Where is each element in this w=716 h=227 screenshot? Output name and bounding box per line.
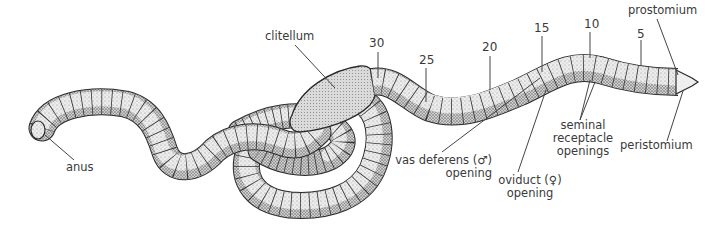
earthworm-diagram: clitellum anus prostomium peristomium se… (0, 0, 716, 227)
seminal-line3: openings (543, 145, 623, 158)
peristomium-leader (667, 91, 683, 141)
vas-line2: opening (384, 167, 492, 180)
segment-number-30: 30 (369, 37, 384, 50)
prostomium-leader (657, 19, 678, 75)
seminal-leader-2 (580, 82, 595, 120)
label-oviduct-opening: oviduct (♀) opening (488, 174, 572, 200)
segment-number-20: 20 (482, 41, 497, 54)
segment-number-10: 10 (584, 18, 599, 31)
label-prostomium: prostomium (628, 4, 697, 17)
segment-number-15: 15 (534, 22, 549, 35)
label-anus: anus (66, 161, 94, 174)
label-peristomium: peristomium (620, 139, 693, 152)
segment-number-5: 5 (637, 28, 645, 41)
earthworm-illustration (0, 0, 716, 227)
seminal-leader-1 (580, 80, 590, 120)
anus-leader (45, 135, 74, 160)
label-seminal-receptacle-openings: seminal receptacle openings (543, 119, 623, 158)
oviduct-line2: opening (488, 187, 572, 200)
label-clitellum: clitellum (265, 30, 314, 43)
clitellum-leader (295, 45, 335, 88)
worm-anterior (372, 63, 698, 112)
segment-number-25: 25 (419, 54, 434, 67)
label-vas-deferens-opening: vas deferens (♂) opening (384, 154, 492, 180)
